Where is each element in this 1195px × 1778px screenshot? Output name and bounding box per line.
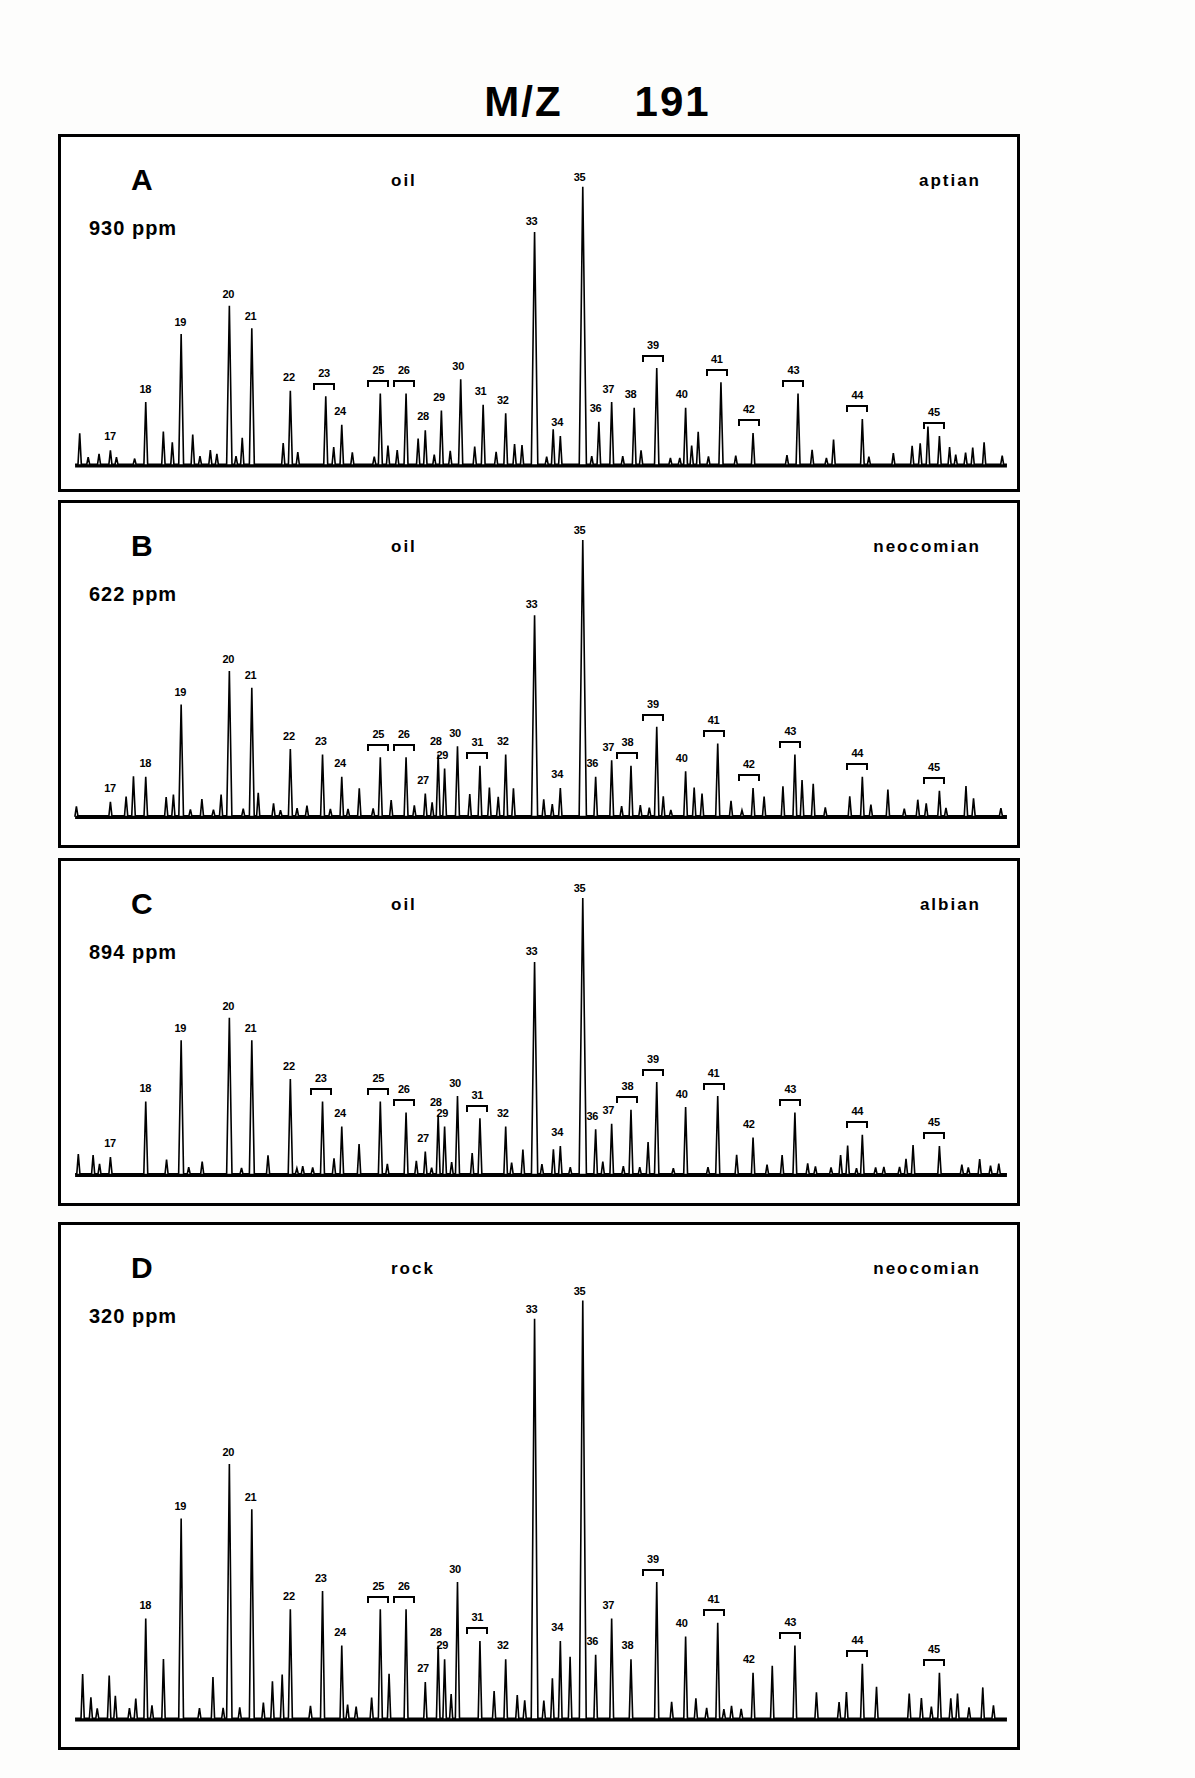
- peak-label-39: 39: [647, 698, 659, 710]
- peak-label-44: 44: [851, 389, 863, 401]
- panel-d-trace: 1819202122232425262728293031323334353637…: [61, 1225, 1017, 1747]
- peak-bracket-25: [367, 744, 389, 751]
- peak-label-25: 25: [373, 1072, 385, 1084]
- peak-label-44: 44: [851, 747, 863, 759]
- peak-label-33: 33: [526, 215, 538, 227]
- peak-label-38: 38: [625, 388, 637, 400]
- peak-label-38: 38: [622, 1080, 634, 1092]
- peak-label-19: 19: [175, 1022, 187, 1034]
- panel-c-inner: C 894 ppm oil albian 1718192021222324252…: [61, 861, 1017, 1203]
- peak-label-36: 36: [586, 757, 598, 769]
- figure-page: M/Z191 A 930 ppm oil aptian 171819202122…: [0, 0, 1195, 1778]
- figure-title-mz: M/Z: [484, 78, 562, 125]
- peak-label-32: 32: [497, 394, 509, 406]
- panel-d-inner: D 320 ppm rock neocomian 181920212223242…: [61, 1225, 1017, 1747]
- peak-label-19: 19: [175, 1500, 187, 1512]
- peak-label-28: 28: [430, 1626, 442, 1638]
- peak-label-40: 40: [676, 388, 688, 400]
- peak-label-41: 41: [708, 1593, 720, 1605]
- peak-label-19: 19: [175, 686, 187, 698]
- panel-b-trace: 1718192021222324252627282930313233343536…: [61, 503, 1017, 845]
- peak-bracket-43: [779, 1099, 801, 1106]
- peak-label-30: 30: [449, 1077, 461, 1089]
- peak-bracket-38: [616, 752, 638, 759]
- peak-label-25: 25: [373, 1580, 385, 1592]
- peak-label-36: 36: [586, 1110, 598, 1122]
- peak-label-35: 35: [574, 171, 586, 183]
- peak-label-22: 22: [283, 730, 295, 742]
- peak-label-26: 26: [398, 364, 410, 376]
- peak-label-31: 31: [472, 1611, 484, 1623]
- peak-bracket-23: [313, 383, 335, 390]
- peak-label-36: 36: [590, 402, 602, 414]
- peak-label-21: 21: [245, 310, 257, 322]
- peak-label-37: 37: [602, 1599, 614, 1611]
- peak-bracket-44: [846, 763, 868, 770]
- peak-label-23: 23: [318, 367, 330, 379]
- peak-label-31: 31: [472, 736, 484, 748]
- peak-label-45: 45: [928, 761, 940, 773]
- peak-label-35: 35: [574, 882, 586, 894]
- peak-label-26: 26: [398, 1083, 410, 1095]
- peak-bracket-39: [642, 1069, 664, 1076]
- peak-bracket-45: [923, 1132, 945, 1139]
- peak-label-24: 24: [334, 757, 346, 769]
- peak-label-27: 27: [417, 1132, 429, 1144]
- peak-label-17: 17: [104, 1137, 116, 1149]
- peak-label-45: 45: [928, 1116, 940, 1128]
- peak-label-27: 27: [417, 774, 429, 786]
- peak-bracket-45: [923, 777, 945, 784]
- figure-title: M/Z191: [0, 78, 1195, 126]
- peak-bracket-31: [466, 752, 488, 759]
- peak-label-31: 31: [475, 385, 487, 397]
- peak-bracket-44: [846, 405, 868, 412]
- peak-label-20: 20: [222, 653, 234, 665]
- peak-label-41: 41: [708, 1067, 720, 1079]
- peak-label-18: 18: [139, 1599, 151, 1611]
- peak-label-42: 42: [743, 403, 755, 415]
- peak-label-33: 33: [526, 598, 538, 610]
- peak-label-29: 29: [433, 391, 445, 403]
- peak-label-45: 45: [928, 1643, 940, 1655]
- peak-label-42: 42: [743, 1653, 755, 1665]
- peak-bracket-41: [703, 730, 725, 737]
- peak-label-34: 34: [551, 1126, 563, 1138]
- peak-label-32: 32: [497, 1107, 509, 1119]
- peak-bracket-25: [367, 380, 389, 387]
- peak-bracket-26: [393, 744, 415, 751]
- peak-bracket-44: [846, 1121, 868, 1128]
- peak-bracket-45: [923, 1659, 945, 1666]
- peak-label-22: 22: [283, 1590, 295, 1602]
- peak-label-41: 41: [708, 714, 720, 726]
- peak-label-42: 42: [743, 1118, 755, 1130]
- panel-b-inner: B 622 ppm oil neocomian 1718192021222324…: [61, 503, 1017, 845]
- peak-label-28: 28: [430, 735, 442, 747]
- peak-label-17: 17: [104, 782, 116, 794]
- peak-label-38: 38: [622, 1639, 634, 1651]
- chromatogram-panel-d: D 320 ppm rock neocomian 181920212223242…: [58, 1222, 1020, 1750]
- peak-bracket-23: [310, 1088, 332, 1095]
- panel-a-trace: 1718192021222324252628293031323334353637…: [61, 137, 1017, 489]
- peak-label-20: 20: [222, 1000, 234, 1012]
- peak-label-32: 32: [497, 1639, 509, 1651]
- peak-label-25: 25: [373, 728, 385, 740]
- peak-bracket-41: [703, 1083, 725, 1090]
- peak-label-23: 23: [315, 1572, 327, 1584]
- peak-label-32: 32: [497, 735, 509, 747]
- peak-bracket-42: [738, 774, 760, 781]
- peak-bracket-26: [393, 380, 415, 387]
- peak-label-22: 22: [283, 371, 295, 383]
- peak-label-45: 45: [928, 406, 940, 418]
- panel-c-trace: 1718192021222324252627282930313233343536…: [61, 861, 1017, 1203]
- peak-label-29: 29: [436, 1107, 448, 1119]
- peak-label-42: 42: [743, 758, 755, 770]
- peak-label-26: 26: [398, 1580, 410, 1592]
- peak-label-43: 43: [784, 725, 796, 737]
- peak-bracket-43: [779, 741, 801, 748]
- peak-label-44: 44: [851, 1105, 863, 1117]
- peak-bracket-31: [466, 1105, 488, 1112]
- peak-label-20: 20: [222, 1446, 234, 1458]
- peak-label-24: 24: [334, 1107, 346, 1119]
- peak-label-34: 34: [551, 768, 563, 780]
- peak-bracket-26: [393, 1596, 415, 1603]
